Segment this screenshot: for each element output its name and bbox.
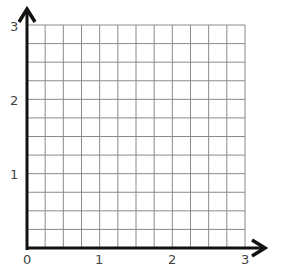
grid-lines [27, 25, 245, 248]
y-tick-label-1: 1 [10, 168, 18, 181]
x-tick-label-0: 0 [23, 253, 31, 266]
y-tick-label-2: 2 [10, 94, 18, 107]
x-axis [27, 240, 265, 256]
x-tick-label-2: 2 [168, 253, 176, 266]
y-tick-label-3: 3 [10, 20, 18, 33]
x-tick-label-3: 3 [241, 253, 249, 266]
coordinate-grid [0, 0, 282, 277]
x-tick-label-1: 1 [95, 253, 103, 266]
y-axis [19, 9, 35, 250]
